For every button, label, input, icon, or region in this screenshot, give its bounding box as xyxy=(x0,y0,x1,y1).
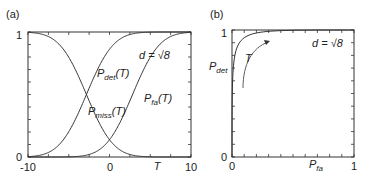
panel-a-xtick-10: 10 xyxy=(185,161,197,173)
label-p-det: Pdet(T) xyxy=(97,67,130,82)
label-p-miss: Pmiss(T) xyxy=(88,105,126,120)
label-p-fa: Pfa(T) xyxy=(144,92,172,107)
panel-a: (a) 1 0 -10 0 10 T d = √8 Pdet(T) Pmiss(… xyxy=(6,8,197,173)
arrow-label: T xyxy=(245,52,253,64)
panel-b-xtick-0: 0 xyxy=(229,160,235,172)
panel-a-xlabel: T xyxy=(154,160,162,172)
figure: (a) 1 0 -10 0 10 T d = √8 Pdet(T) Pmiss(… xyxy=(0,0,370,182)
panel-b-xtick-1: 1 xyxy=(351,160,357,172)
panel-b-annotation: d = √8 xyxy=(312,37,344,49)
panel-a-annotation: d = √8 xyxy=(139,49,171,61)
roc-curve xyxy=(232,30,354,157)
panel-b-ticks xyxy=(232,30,354,157)
panel-a-label: (a) xyxy=(6,8,19,20)
panel-b-label: (b) xyxy=(210,8,223,20)
panel-b-xlabel: Pfa xyxy=(309,158,324,173)
panel-a-xtick-0: 0 xyxy=(107,161,113,173)
panel-b: (b) 1 0 0 1 Pfa Pdet d = √8 T xyxy=(209,8,357,173)
panel-b-ylabel: Pdet xyxy=(209,60,228,75)
panel-b-ytick-0: 0 xyxy=(221,151,227,163)
panel-a-xtick-neg10: -10 xyxy=(20,161,36,173)
arrow-head-icon xyxy=(264,40,270,45)
panel-b-ytick-1: 1 xyxy=(221,27,227,39)
panel-a-ytick-1: 1 xyxy=(16,29,22,41)
threshold-arrow xyxy=(243,42,268,88)
panel-b-frame xyxy=(232,30,354,157)
